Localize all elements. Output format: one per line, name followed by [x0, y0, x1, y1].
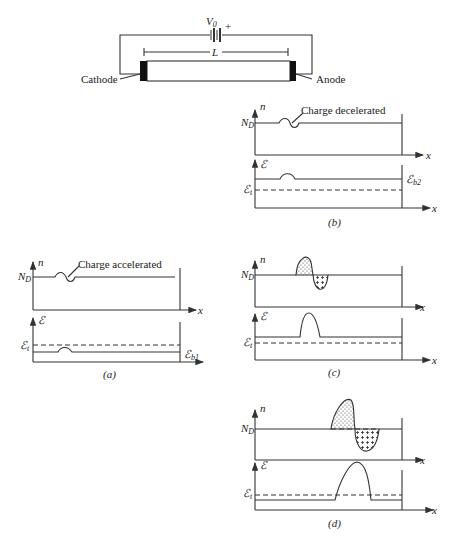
field-curve [255, 313, 402, 337]
e-axis-label: ℰ [38, 314, 46, 326]
voltage-label: V0 [206, 15, 217, 29]
bias-label: ℰb2 [406, 173, 421, 187]
x-axis-label: x [431, 504, 437, 516]
n-axis-label: n [38, 256, 44, 268]
annotation: Charge decelerated [301, 104, 386, 116]
nd-label: ND [240, 268, 254, 282]
nd-label: ND [240, 116, 254, 130]
anode-contact [290, 61, 296, 81]
electron-density-curve [255, 119, 402, 128]
x-axis-label: x [197, 304, 203, 316]
field-curve [255, 174, 402, 179]
x-axis-label: x [425, 149, 431, 161]
e-axis-label: ℰ [260, 459, 268, 471]
x-axis-label: x [419, 454, 425, 466]
field-curve [255, 462, 402, 500]
cathode-contact [140, 61, 147, 81]
caption: (a) [103, 368, 116, 381]
anode-label: Anode [316, 73, 345, 85]
panel-a: n x ND Charge accelerated ℰ ℰt ℰb1 (a) [17, 256, 203, 381]
gunn-domain-diagram: V0 + L Cathode Anode n x ND Charge decel… [0, 0, 463, 536]
electron-density-curve [33, 273, 175, 282]
field-curve [33, 348, 180, 353]
threshold-label: ℰt [243, 487, 253, 501]
n-axis-label: n [260, 100, 266, 112]
x-axis-label: x [431, 354, 437, 366]
n-axis-label: n [260, 402, 266, 414]
battery-icon [211, 28, 220, 42]
caption: (d) [328, 517, 341, 530]
polarity-label: + [225, 20, 231, 32]
depletion-layer [355, 429, 379, 451]
n-axis-label: n [260, 253, 266, 265]
nd-label: ND [240, 422, 254, 436]
panel-b: n x ND Charge decelerated ℰ x ℰt ℰb2 (b) [240, 100, 437, 229]
e-axis-label: ℰ [260, 310, 268, 322]
depletion-layer [313, 275, 328, 289]
semiconductor-bar [147, 61, 290, 81]
annotation: Charge accelerated [78, 258, 162, 270]
length-label: L [211, 46, 218, 58]
caption: (b) [328, 216, 341, 229]
panel-c: n x ND ℰ x ℰt (c) [240, 253, 437, 379]
threshold-label: ℰt [243, 183, 253, 197]
threshold-label: ℰt [20, 339, 30, 353]
threshold-label: ℰt [243, 336, 253, 350]
accumulation-layer [296, 257, 313, 275]
panel-d: n x ND ℰ x ℰt (d) [240, 399, 437, 530]
e-axis-label: ℰ [260, 158, 268, 170]
caption: (c) [328, 366, 341, 379]
circuit: V0 + L Cathode Anode [81, 15, 345, 85]
nd-label: ND [17, 270, 31, 284]
accumulation-layer [331, 399, 355, 429]
x-axis-label: x [419, 301, 425, 313]
x-axis-label: x [431, 202, 437, 214]
bias-label: ℰb1 [184, 348, 199, 362]
cathode-label: Cathode [81, 73, 118, 85]
